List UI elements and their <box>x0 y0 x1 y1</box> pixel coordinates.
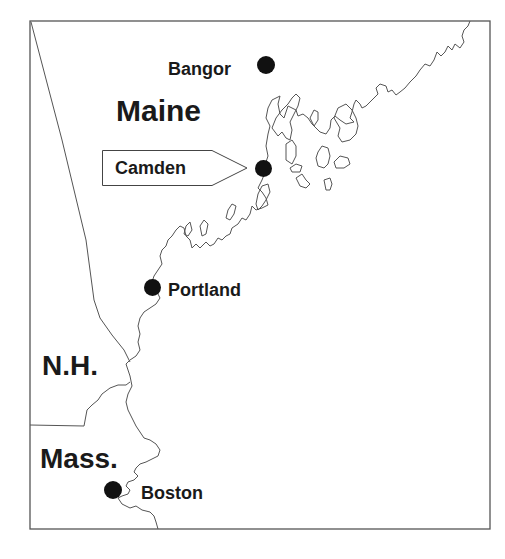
city-marker-camden[interactable] <box>255 160 272 177</box>
island <box>226 204 236 220</box>
island <box>272 94 300 140</box>
island <box>200 220 208 236</box>
city-label-boston: Boston <box>141 484 203 502</box>
island <box>324 178 332 190</box>
maine-nh-border <box>31 22 130 362</box>
city-marker-bangor[interactable] <box>257 56 275 74</box>
state-label-maine: Maine <box>116 96 201 126</box>
state-label-nh: N.H. <box>42 352 98 380</box>
island <box>286 140 296 164</box>
city-label-bangor: Bangor <box>168 60 231 78</box>
map-canvas <box>0 0 505 559</box>
nh-mass-border <box>30 382 130 426</box>
city-marker-portland[interactable] <box>144 279 161 296</box>
city-label-portland: Portland <box>168 281 241 299</box>
state-label-mass: Mass. <box>40 445 118 473</box>
island <box>334 104 358 142</box>
island <box>334 156 350 168</box>
island <box>290 164 302 172</box>
city-label-camden: Camden <box>115 159 186 177</box>
island <box>316 146 330 168</box>
island <box>296 174 310 188</box>
city-marker-boston[interactable] <box>104 481 122 499</box>
